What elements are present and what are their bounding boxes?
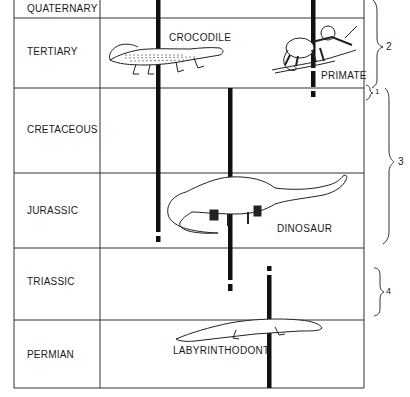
animal-label-dinosaur: DINOSAUR xyxy=(277,223,332,234)
labyrinthodont-illustration xyxy=(176,319,322,341)
animal-label-primate: PRIMATE xyxy=(321,70,367,81)
crocodile-illustration xyxy=(109,44,223,74)
animal-label-labyrinthodont: LABYRINTHODONT xyxy=(173,345,269,356)
period-label-triassic: TRIASSIC xyxy=(14,276,100,287)
animal-label-crocodile: CROCODILE xyxy=(169,32,231,43)
brace-label-1: 1 xyxy=(375,87,379,96)
period-label-quaternary: QUATERNARY xyxy=(14,3,100,14)
brace-3 xyxy=(383,88,394,244)
brace-label-3: 3 xyxy=(398,156,404,167)
brace-4 xyxy=(374,268,384,316)
brace-2 xyxy=(372,0,383,88)
period-label-jurassic: JURASSIC xyxy=(14,205,100,216)
brace-label-2: 2 xyxy=(386,41,392,52)
period-label-permian: PERMIAN xyxy=(14,349,100,360)
geologic-chart: QUATERNARY TERTIARY CRETACEOUS JURASSIC … xyxy=(0,0,410,397)
crocodile-range-line xyxy=(156,0,161,242)
brace-1 xyxy=(366,85,373,100)
period-label-tertiary: TERTIARY xyxy=(14,46,100,57)
period-label-cretaceous: CRETACEOUS xyxy=(14,124,100,135)
brace-label-4: 4 xyxy=(386,286,391,296)
chart-graphics xyxy=(0,0,410,397)
